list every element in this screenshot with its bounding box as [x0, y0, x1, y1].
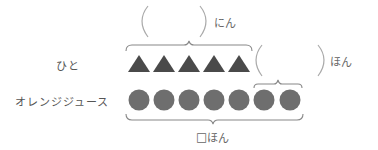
- triangle-icon: [153, 55, 175, 72]
- circle-icon: [129, 90, 150, 111]
- circle-icon: [179, 90, 200, 111]
- brace-under-circles: [126, 114, 303, 124]
- triangle-icon: [228, 55, 250, 72]
- circle-icon: [254, 90, 275, 111]
- circle-icon: [229, 90, 250, 111]
- paren-right-people: [200, 6, 206, 37]
- paren-right-extra: [318, 45, 324, 76]
- triangle-icon: [128, 55, 150, 72]
- triangle-row: [128, 55, 250, 72]
- circle-icon: [280, 90, 301, 111]
- extra-unit: ほん: [330, 53, 352, 69]
- brace-over-triangles: [126, 41, 252, 51]
- answer-box-icon: □: [196, 130, 207, 144]
- paren-left-people: [142, 6, 148, 37]
- circle-row: [129, 90, 301, 111]
- circle-icon: [154, 90, 175, 111]
- triangle-icon: [178, 55, 200, 72]
- circle-icon: [204, 90, 225, 111]
- total-unit: ほん: [207, 129, 229, 145]
- brace-over-extra-circles: [254, 80, 302, 88]
- paren-left-extra: [256, 45, 262, 76]
- triangle-icon: [203, 55, 225, 72]
- diagram-graphics: [0, 0, 378, 150]
- total-answer: □ ほん: [196, 129, 229, 145]
- people-unit: にん: [214, 14, 236, 30]
